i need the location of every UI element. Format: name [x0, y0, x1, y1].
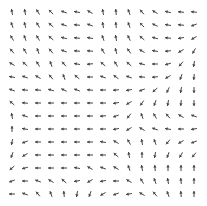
arrow-icon	[178, 36, 184, 39]
arrow-icon	[165, 36, 171, 39]
arrow-icon	[49, 23, 54, 27]
arrow-icon	[178, 127, 184, 130]
arrow-icon	[61, 140, 67, 143]
arrow-icon	[139, 127, 144, 130]
arrow-icon	[35, 114, 41, 117]
arrow-icon	[152, 62, 158, 65]
arrow-icon	[10, 166, 15, 170]
arrow-icon	[22, 75, 28, 78]
arrow-icon	[23, 9, 26, 15]
arrow-icon	[87, 153, 93, 156]
arrow-icon	[9, 88, 15, 91]
arrow-icon	[61, 49, 67, 52]
arrow-icon	[192, 87, 195, 93]
arrow-icon	[48, 127, 54, 130]
arrow-icon	[153, 139, 156, 145]
arrow-icon	[48, 179, 53, 182]
arrow-icon	[87, 114, 93, 117]
arrow-icon	[127, 22, 130, 28]
arrow-icon	[61, 153, 67, 156]
arrow-icon	[191, 114, 197, 117]
arrow-icon	[49, 75, 53, 80]
arrow-icon	[74, 88, 80, 91]
arrow-icon	[114, 9, 117, 15]
arrow-icon	[127, 9, 130, 15]
arrow-icon	[74, 114, 80, 117]
arrow-icon	[74, 179, 80, 182]
arrow-icon	[74, 101, 80, 104]
arrow-icon	[178, 114, 183, 117]
arrow-icon	[36, 48, 39, 54]
arrow-icon	[88, 191, 91, 197]
arrow-icon	[113, 115, 119, 118]
arrow-icon	[87, 140, 93, 143]
arrow-icon	[153, 178, 156, 184]
arrow-icon	[139, 49, 144, 52]
arrow-icon	[61, 10, 67, 13]
quiver-plot	[0, 0, 207, 206]
arrow-icon	[87, 88, 93, 91]
arrow-icon	[62, 74, 65, 80]
arrow-icon	[35, 179, 41, 182]
arrow-icon	[152, 49, 158, 52]
arrow-icon	[75, 75, 80, 79]
arrow-icon	[191, 127, 197, 130]
arrow-icon	[101, 62, 106, 66]
arrow-icon	[100, 127, 106, 130]
arrow-icon	[191, 37, 196, 40]
arrow-icon	[9, 62, 14, 65]
arrow-icon	[114, 153, 119, 157]
arrow-icon	[165, 49, 171, 52]
arrow-icon	[114, 22, 117, 28]
arrow-icon	[127, 139, 130, 144]
arrow-icon	[139, 89, 145, 92]
arrow-icon	[152, 36, 158, 39]
arrow-icon	[179, 100, 182, 106]
arrow-icon	[10, 9, 13, 15]
arrow-icon	[192, 74, 195, 80]
arrow-icon	[10, 35, 13, 40]
arrow-icon	[75, 191, 78, 197]
arrow-icon	[36, 22, 39, 27]
arrow-icon	[191, 141, 197, 144]
arrow-icon	[166, 152, 169, 158]
arrow-icon	[140, 113, 143, 119]
arrow-icon	[100, 166, 106, 169]
arrow-icon	[35, 127, 41, 130]
arrow-icon	[113, 127, 119, 130]
arrow-icon	[74, 36, 80, 39]
arrow-icon	[178, 50, 183, 53]
arrow-icon	[178, 141, 183, 144]
arrow-icon	[22, 127, 28, 130]
arrow-icon	[152, 127, 158, 130]
arrow-icon	[140, 10, 144, 15]
arrow-icon	[35, 88, 41, 91]
arrow-icon	[100, 101, 106, 104]
arrow-icon	[179, 165, 182, 171]
arrow-icon	[100, 88, 106, 91]
arrow-icon	[36, 35, 39, 40]
arrow-icon	[152, 75, 158, 78]
arrow-icon	[23, 35, 26, 41]
arrow-icon	[22, 192, 28, 195]
arrow-icon	[113, 101, 119, 104]
arrow-icon	[100, 193, 105, 196]
arrow-icon	[166, 87, 169, 92]
arrow-icon	[74, 49, 80, 52]
arrow-icon	[48, 140, 54, 143]
arrow-icon	[35, 101, 41, 104]
arrow-icon	[166, 178, 169, 184]
arrow-icon	[48, 114, 54, 117]
arrow-icon	[22, 167, 28, 170]
arrow-icon	[165, 23, 171, 26]
arrow-icon	[87, 49, 93, 52]
arrow-icon	[74, 140, 80, 143]
arrow-icon	[166, 165, 169, 171]
arrow-icon	[35, 140, 41, 143]
arrow-icon	[140, 152, 143, 158]
arrow-icon	[192, 48, 195, 53]
arrow-icon	[153, 165, 156, 171]
arrow-icon	[192, 178, 195, 184]
arrow-icon	[9, 75, 15, 78]
arrow-icon	[192, 100, 195, 106]
